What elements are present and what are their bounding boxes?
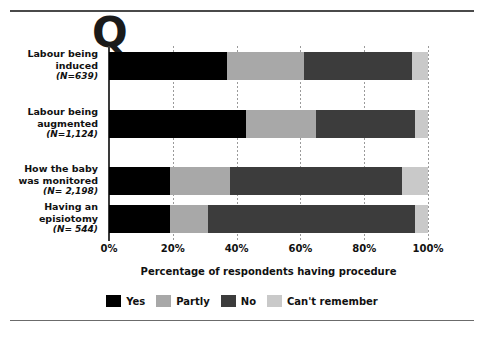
category-label-n: (N= 544) bbox=[0, 224, 98, 236]
bar-segment-no bbox=[208, 205, 415, 233]
bar-segment-yes bbox=[109, 205, 170, 233]
stacked-bar-chart: Labour beinginduced(N=639)Labour beingau… bbox=[0, 0, 484, 339]
category-label-line1: How the baby bbox=[0, 163, 98, 175]
legend-swatch-icon bbox=[156, 295, 171, 307]
category-label-n: (N= 2,198) bbox=[0, 186, 98, 198]
legend-item: Partly bbox=[156, 295, 209, 307]
gridline-100 bbox=[428, 46, 429, 241]
x-tick-label: 100% bbox=[413, 243, 444, 254]
bar-segment-yes bbox=[109, 167, 170, 195]
category-label-line2: augmented bbox=[0, 118, 98, 130]
chart-legend: YesPartlyNoCan't remember bbox=[0, 295, 484, 307]
legend-label: No bbox=[241, 296, 256, 307]
category-label: Labour beinginduced(N=639) bbox=[0, 48, 98, 83]
legend-item: Yes bbox=[106, 295, 145, 307]
x-tick-label: 80% bbox=[352, 243, 376, 254]
category-label-line2: episiotomy bbox=[0, 213, 98, 225]
bar-segment-partly bbox=[227, 52, 304, 80]
category-label-line1: Labour being bbox=[0, 106, 98, 118]
category-label-n: (N=1,124) bbox=[0, 129, 98, 141]
bar-segment-can-t-remember bbox=[415, 110, 428, 138]
category-label: Labour beingaugmented(N=1,124) bbox=[0, 106, 98, 141]
legend-label: Can't remember bbox=[287, 296, 378, 307]
bar-segment-no bbox=[304, 52, 412, 80]
bar-segment-partly bbox=[170, 167, 231, 195]
legend-item: No bbox=[221, 295, 256, 307]
figure-page: Q Labour beinginduced(N=639)Labour being… bbox=[0, 0, 484, 339]
category-label-line1: Labour being bbox=[0, 48, 98, 60]
legend-swatch-icon bbox=[221, 295, 236, 307]
bar-segment-yes bbox=[109, 110, 246, 138]
bar-segment-partly bbox=[170, 205, 208, 233]
legend-label: Yes bbox=[126, 296, 145, 307]
bar-row bbox=[109, 110, 428, 138]
legend-item: Can't remember bbox=[267, 295, 378, 307]
bar-segment-no bbox=[230, 167, 402, 195]
x-axis-title: Percentage of respondents having procedu… bbox=[109, 266, 428, 277]
bar-segment-can-t-remember bbox=[415, 205, 428, 233]
category-label-line2: induced bbox=[0, 60, 98, 72]
category-label-n: (N=639) bbox=[0, 71, 98, 83]
bar-row bbox=[109, 52, 428, 80]
x-tick-label: 40% bbox=[225, 243, 249, 254]
legend-label: Partly bbox=[176, 296, 209, 307]
bar-segment-can-t-remember bbox=[402, 167, 428, 195]
bar-segment-yes bbox=[109, 52, 227, 80]
x-tick-label: 60% bbox=[288, 243, 312, 254]
category-label-line1: Having an bbox=[0, 201, 98, 213]
bar-row bbox=[109, 167, 428, 195]
bar-segment-partly bbox=[246, 110, 316, 138]
bar-segment-can-t-remember bbox=[412, 52, 428, 80]
bar-row bbox=[109, 205, 428, 233]
x-tick-label: 20% bbox=[161, 243, 185, 254]
bar-segment-no bbox=[316, 110, 415, 138]
legend-swatch-icon bbox=[106, 295, 121, 307]
category-label: Having anepisiotomy(N= 544) bbox=[0, 201, 98, 236]
x-tick-label: 0% bbox=[101, 243, 118, 254]
category-label: How the babywas monitored(N= 2,198) bbox=[0, 163, 98, 198]
category-label-line2: was monitored bbox=[0, 175, 98, 187]
legend-swatch-icon bbox=[267, 295, 282, 307]
